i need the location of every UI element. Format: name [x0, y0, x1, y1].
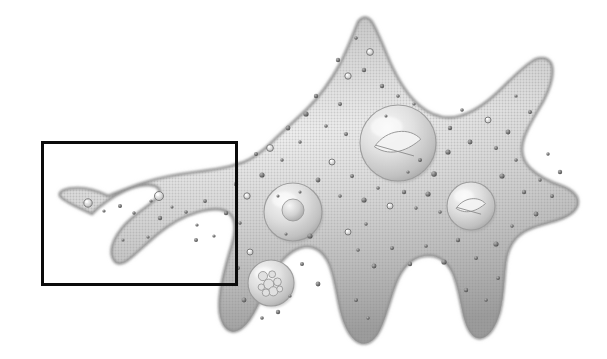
- cytoplasmic-granule: [345, 73, 351, 79]
- cytoplasmic-granule: [288, 294, 291, 297]
- cytoplasmic-granule: [276, 310, 280, 314]
- cytoplasmic-granule: [414, 206, 417, 209]
- cytoplasmic-granule: [496, 276, 500, 280]
- cytoplasmic-granule: [254, 152, 258, 156]
- cytoplasmic-granule: [499, 173, 504, 178]
- cytoplasmic-granule: [408, 262, 412, 266]
- cytoplasmic-granule: [468, 140, 473, 145]
- cytoplasmic-granule: [338, 102, 342, 106]
- cytoplasmic-granule: [361, 197, 366, 202]
- cytoplasmic-granule: [431, 171, 437, 177]
- cytoplasmic-granule: [354, 36, 358, 40]
- cytoplasmic-granule: [406, 170, 409, 173]
- cytoplasmic-granule: [550, 194, 554, 198]
- cytoplasmic-granule: [402, 190, 406, 194]
- cytoplasmic-granule: [345, 229, 351, 235]
- cytoplasmic-granule: [522, 190, 526, 194]
- cytoplasmic-granule: [280, 158, 283, 161]
- granule-highlight: [245, 194, 247, 196]
- granule-highlight: [268, 146, 270, 148]
- cytoplasmic-granule: [329, 159, 335, 165]
- cytoplasmic-granule: [438, 210, 442, 214]
- cytoplasmic-granule: [460, 108, 464, 112]
- cytoplasmic-granule: [425, 191, 430, 196]
- cytoplasmic-granule: [448, 126, 452, 130]
- cytoplasmic-granule: [418, 158, 422, 162]
- cytoplasmic-granule: [259, 172, 264, 177]
- granule-highlight: [368, 50, 370, 52]
- cytoplasmic-granule: [267, 145, 274, 152]
- cytoplasmic-granule: [300, 262, 304, 266]
- cytoplasmic-granule: [528, 110, 532, 114]
- cytoplasmic-granule: [316, 178, 321, 183]
- cytoplasmic-granule: [494, 146, 498, 150]
- cytoplasmic-granule: [380, 84, 384, 88]
- granule-highlight: [486, 118, 488, 120]
- cytoplasmic-granule: [372, 264, 377, 269]
- cytoplasmic-granule: [366, 316, 369, 319]
- cytoplasmic-granule: [238, 221, 241, 224]
- cytoplasmic-granule: [316, 282, 321, 287]
- cytoplasmic-granule: [338, 194, 342, 198]
- granule-highlight: [330, 160, 332, 162]
- cytoplasmic-granule: [303, 111, 308, 116]
- cytoplasmic-granule: [367, 49, 374, 56]
- cytoplasmic-granule: [286, 126, 291, 131]
- cytoplasmic-granule: [510, 224, 514, 228]
- figure-root: Amoeba cell illustration: [0, 0, 607, 359]
- cytoplasmic-granule: [364, 222, 367, 225]
- cytoplasmic-granule: [412, 102, 415, 105]
- cytoplasmic-granule: [242, 298, 247, 303]
- cytoplasmic-granule: [356, 248, 360, 252]
- cytoplasmic-granule: [298, 140, 301, 143]
- cytoplasmic-granule: [314, 94, 318, 98]
- cytoplasmic-granule: [514, 158, 518, 162]
- granule-highlight: [248, 250, 250, 252]
- cytoplasmic-granule: [396, 94, 400, 98]
- selection-rectangle[interactable]: [41, 141, 238, 286]
- cytoplasmic-granule: [390, 246, 394, 250]
- cytoplasmic-granule: [538, 178, 541, 181]
- cytoplasmic-granule: [485, 117, 491, 123]
- cytoplasmic-granule: [324, 124, 328, 128]
- cytoplasmic-granule: [247, 249, 253, 255]
- cytoplasmic-granule: [376, 186, 380, 190]
- cytoplasmic-granule: [299, 191, 302, 194]
- cytoplasmic-granule: [493, 241, 498, 246]
- cytoplasmic-granule: [385, 115, 388, 118]
- granule-highlight: [346, 74, 348, 76]
- cytoplasmic-granule: [506, 130, 511, 135]
- cytoplasmic-granule: [307, 233, 312, 238]
- cytoplasmic-granule: [350, 174, 354, 178]
- cytoplasmic-granule: [354, 298, 358, 302]
- cytoplasmic-granule: [387, 203, 393, 209]
- cytoplasmic-granule: [277, 195, 280, 198]
- cytoplasmic-granule: [441, 259, 446, 264]
- granule-highlight: [346, 230, 348, 232]
- cytoplasmic-granule: [534, 212, 539, 217]
- granule-highlight: [388, 204, 390, 206]
- cytoplasmic-granule: [336, 58, 340, 62]
- cytoplasmic-granule: [464, 288, 468, 292]
- cytoplasmic-granule: [344, 132, 348, 136]
- cytoplasmic-granule: [260, 316, 264, 320]
- cytoplasmic-granule: [514, 94, 517, 97]
- cytoplasmic-granule: [546, 152, 549, 155]
- cytoplasmic-granule: [484, 298, 488, 302]
- cytoplasmic-granule: [362, 68, 366, 72]
- cytoplasmic-granule: [445, 149, 450, 154]
- cytoplasmic-granule: [456, 238, 460, 242]
- cytoplasmic-granule: [285, 233, 288, 236]
- cytoplasmic-granule: [558, 170, 562, 174]
- cytoplasmic-granule: [424, 244, 428, 248]
- cytoplasmic-granule: [474, 256, 478, 260]
- cytoplasmic-granule: [244, 193, 250, 199]
